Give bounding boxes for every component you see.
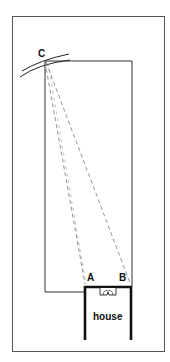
dashed-line-c-to-a-inner bbox=[48, 63, 86, 284]
plot-boundary bbox=[45, 61, 132, 292]
dashed-line-c-to-b bbox=[46, 62, 130, 283]
label-point-c: C bbox=[38, 48, 45, 59]
outer-frame bbox=[13, 17, 165, 352]
garden-diagram: C A B house bbox=[0, 0, 170, 362]
label-point-b: B bbox=[119, 272, 126, 283]
door-icon bbox=[100, 288, 116, 295]
label-house: house bbox=[93, 311, 123, 322]
label-point-a: A bbox=[87, 272, 94, 283]
dashed-line-c-to-a bbox=[45, 62, 85, 284]
